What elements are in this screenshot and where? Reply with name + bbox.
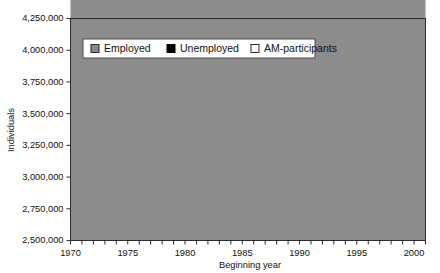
- y-tick-label: 3,000,000: [22, 172, 63, 182]
- x-axis-title: Beginning year: [219, 260, 281, 270]
- legend-swatch-am-participants: [251, 45, 259, 53]
- area-employed: [71, 0, 426, 241]
- y-tick-label: 3,750,000: [22, 77, 63, 87]
- x-tick-label: 1990: [289, 248, 310, 258]
- y-tick-label: 3,250,000: [22, 140, 63, 150]
- legend-label-unemployed: Unemployed: [180, 42, 239, 54]
- x-tick-label: 2000: [404, 248, 425, 258]
- y-tick-label: 4,000,000: [22, 45, 63, 55]
- x-tick-label: 1975: [117, 248, 138, 258]
- chart-container: Figure Development of the labour force, …: [0, 0, 440, 273]
- y-axis-tick-labels: 2,500,0002,750,0003,000,0003,250,0003,50…: [22, 13, 63, 245]
- legend-label-employed: Employed: [104, 42, 151, 54]
- x-axis-tick-labels: 1970197519801985199019952000: [60, 248, 424, 258]
- legend-swatch-employed: [91, 45, 99, 53]
- legend-swatch-unemployed: [167, 45, 175, 53]
- y-axis-title: Individuals: [6, 108, 16, 152]
- x-tick-label: 1995: [346, 248, 367, 258]
- y-tick-label: 2,500,000: [22, 235, 63, 245]
- x-tick-label: 1970: [60, 248, 81, 258]
- x-tick-label: 1985: [232, 248, 253, 258]
- y-tick-label: 4,250,000: [22, 13, 63, 23]
- y-tick-label: 3,500,000: [22, 109, 63, 119]
- y-tick-label: 2,750,000: [22, 204, 63, 214]
- stacked-area-group: [71, 0, 426, 241]
- area-chart: 2,500,0002,750,0003,000,0003,250,0003,50…: [0, 0, 440, 273]
- chart-legend: EmployedUnemployedAM-participants: [83, 39, 337, 58]
- legend-label-am-participants: AM-participants: [264, 42, 337, 54]
- x-tick-label: 1980: [175, 248, 196, 258]
